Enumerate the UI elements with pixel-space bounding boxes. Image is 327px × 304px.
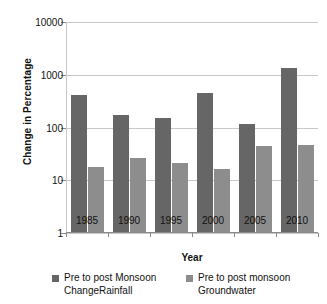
legend-entry-groundwater: Pre to post monsoon Groundwater [186, 272, 320, 297]
y-axis-title: Change in Percentage [22, 42, 33, 182]
bar-group [113, 22, 146, 233]
y-tick-label: 100 [5, 122, 63, 133]
bar-group [239, 22, 272, 233]
x-tick-mark [150, 233, 151, 237]
y-tick-label: 1000 [5, 69, 63, 80]
bar [281, 68, 297, 233]
y-tick-label: 1 [5, 228, 63, 239]
legend-swatch-icon [186, 275, 193, 282]
x-tick-label: 2010 [267, 215, 327, 226]
x-tick-mark [276, 233, 277, 237]
legend-label-rainfall: Pre to post Monsoon ChangeRainfall [64, 272, 156, 297]
legend-label-line1: Pre to post Monsoon [64, 272, 156, 283]
legend-entry-rainfall: Pre to post Monsoon ChangeRainfall [52, 272, 186, 297]
x-tick-mark [318, 233, 319, 237]
x-tick-mark [192, 233, 193, 237]
y-tick-label: 10 [5, 175, 63, 186]
bar-group [197, 22, 230, 233]
y-tick-label: 10000 [5, 17, 63, 28]
bar [197, 93, 213, 233]
x-tick-mark [234, 233, 235, 237]
x-axis-title: Year [66, 252, 318, 263]
legend-label-line1: Pre to post monsoon [198, 272, 290, 283]
x-tick-mark [66, 233, 67, 237]
x-tick-mark [108, 233, 109, 237]
bar-group [71, 22, 104, 233]
legend-label-line2: Groundwater [198, 285, 256, 296]
legend-label-groundwater: Pre to post monsoon Groundwater [198, 272, 290, 297]
bar-group [155, 22, 188, 233]
bar [71, 95, 87, 233]
bar-group [281, 22, 314, 233]
legend-label-line2: ChangeRainfall [64, 285, 132, 296]
bars-layer [66, 22, 318, 233]
legend-swatch-icon [52, 275, 59, 282]
chart-legend: Pre to post Monsoon ChangeRainfall Pre t… [52, 272, 320, 297]
chart-container: Change in Percentage 110100100010000 198… [0, 0, 327, 304]
plot-area [66, 22, 318, 233]
